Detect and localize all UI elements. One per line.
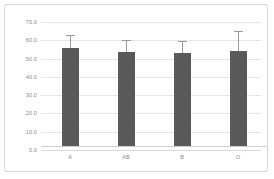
bar-a[interactable]	[62, 48, 79, 146]
ytick-label-30: 30.0	[9, 92, 37, 98]
ytick-label-40: 40.0	[9, 74, 37, 80]
xtick-label-o: O	[211, 154, 265, 160]
ytick-label-70: 70.0	[9, 19, 37, 25]
ytick-label-60: 60.0	[9, 37, 37, 43]
error-bar-cap-ab	[122, 40, 131, 41]
bar-b[interactable]	[174, 53, 191, 146]
bar-slot-o	[211, 18, 265, 146]
chart-frame: 70.0 60.0 50.0 40.0 30.0 20.0 10.0 0.0	[4, 4, 268, 172]
error-bar-cap-b	[178, 41, 187, 42]
ytick-label-20: 20.0	[9, 110, 37, 116]
xtick-label-b: B	[155, 154, 209, 160]
ytick-label-10: 10.0	[9, 129, 37, 135]
gridline-0	[41, 150, 261, 151]
x-axis-line	[41, 146, 267, 147]
xtick-label-ab: AB	[99, 154, 153, 160]
xtick-label-a: A	[43, 154, 97, 160]
error-bar-line-o	[238, 32, 239, 51]
ytick-label-50: 50.0	[9, 56, 37, 62]
bar-slot-b	[155, 18, 209, 146]
error-bar-line-b	[182, 42, 183, 53]
bar-o[interactable]	[230, 51, 247, 146]
bar-slot-ab	[99, 18, 153, 146]
chart-plot-wrapper: 70.0 60.0 50.0 40.0 30.0 20.0 10.0 0.0	[5, 5, 269, 173]
bar-slot-a	[43, 18, 97, 146]
ytick-label-0: 0.0	[9, 147, 37, 153]
bar-ab[interactable]	[118, 52, 135, 146]
error-bar-line-ab	[126, 41, 127, 52]
error-bar-cap-o	[234, 31, 243, 32]
error-bar-cap-a	[66, 35, 75, 36]
bars-container	[41, 18, 267, 146]
error-bar-line-a	[70, 36, 71, 48]
